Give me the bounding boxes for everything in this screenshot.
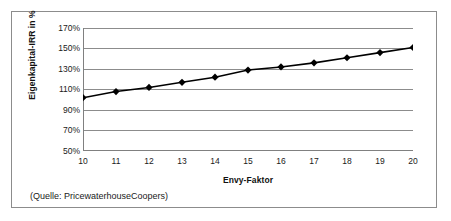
x-tick-label: 15 bbox=[243, 157, 252, 166]
figure-frame: Eigenkapital-IRR in % 170%150%130%110%90… bbox=[11, 11, 437, 208]
chart-svg bbox=[83, 28, 413, 151]
x-tick-label: 20 bbox=[408, 157, 417, 166]
y-tick-label: 150% bbox=[58, 44, 80, 53]
y-tick-label: 110% bbox=[59, 85, 80, 94]
x-tick-label: 12 bbox=[144, 157, 153, 166]
data-point-marker bbox=[376, 49, 383, 56]
data-point-marker bbox=[112, 88, 119, 95]
data-point-marker bbox=[310, 59, 317, 66]
y-tick-label: 50% bbox=[63, 147, 80, 156]
data-point-marker bbox=[211, 74, 218, 81]
x-tick-label: 18 bbox=[342, 157, 351, 166]
y-axis-title: Eigenkapital-IRR in % bbox=[27, 0, 37, 113]
data-point-marker bbox=[343, 54, 350, 61]
data-point-marker bbox=[277, 63, 284, 70]
y-tick-label: 130% bbox=[58, 65, 80, 74]
x-tick-label: 10 bbox=[78, 157, 87, 166]
x-tick-label: 14 bbox=[210, 157, 219, 166]
y-axis-tick-labels: 170%150%130%110%90%70%50% bbox=[42, 28, 80, 151]
y-tick-label: 90% bbox=[63, 106, 80, 115]
x-tick-label: 16 bbox=[276, 157, 285, 166]
x-tick-label: 13 bbox=[177, 157, 186, 166]
y-tick-label: 70% bbox=[63, 126, 80, 135]
x-tick-label: 17 bbox=[309, 157, 318, 166]
data-point-marker bbox=[409, 44, 413, 51]
data-point-marker bbox=[244, 66, 251, 73]
data-point-marker bbox=[145, 84, 152, 91]
x-tick-label: 19 bbox=[375, 157, 384, 166]
data-point-marker bbox=[83, 94, 87, 101]
y-tick-label: 170% bbox=[58, 24, 80, 33]
plot-area bbox=[83, 28, 413, 151]
x-axis-title: Envy-Faktor bbox=[83, 175, 413, 185]
x-axis-tick-labels: 1011121314151617181920 bbox=[83, 157, 413, 171]
source-note: (Quelle: PricewaterhouseCoopers) bbox=[30, 191, 168, 201]
data-point-marker bbox=[178, 79, 185, 86]
x-tick-label: 11 bbox=[112, 157, 121, 166]
